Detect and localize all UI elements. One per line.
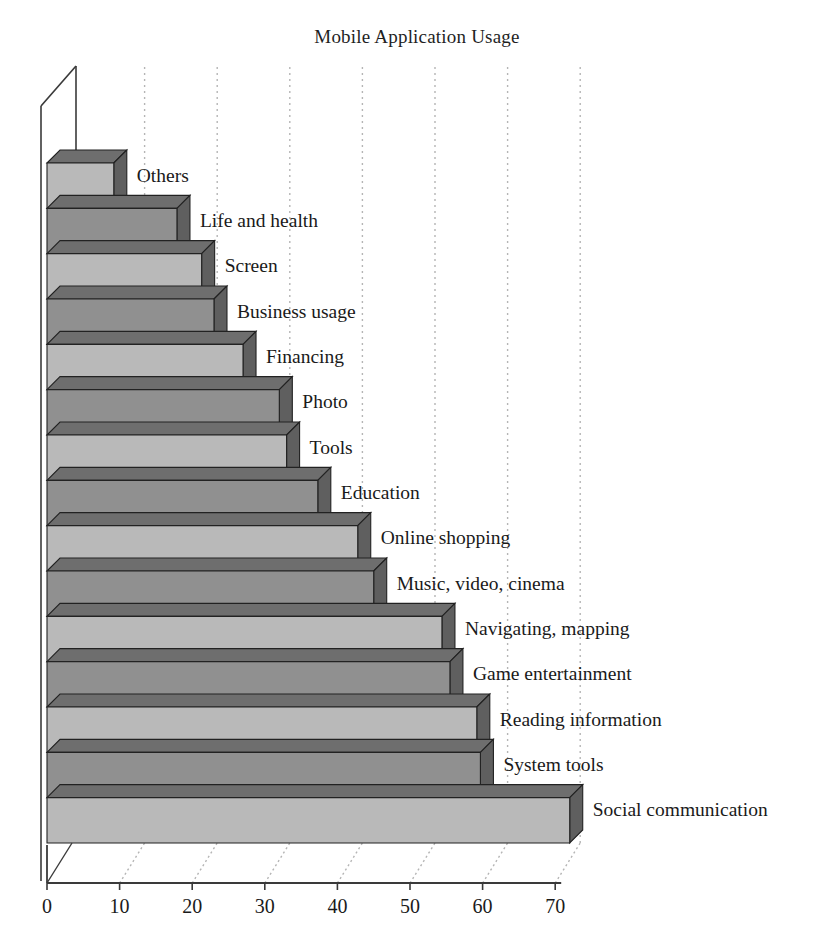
bar-top-face <box>47 467 331 480</box>
category-label-7: Education <box>341 482 420 503</box>
x-tick-label-20: 20 <box>182 895 202 917</box>
category-label-10: Navigating, mapping <box>465 618 630 639</box>
axes <box>47 843 561 890</box>
category-label-9: Music, video, cinema <box>397 573 565 594</box>
bar-top-face <box>47 739 493 752</box>
category-label-1: Life and health <box>200 210 318 231</box>
bar-top-face <box>47 649 463 662</box>
category-label-3: Business usage <box>237 301 356 322</box>
bar-top-face <box>47 694 490 707</box>
category-label-4: Financing <box>266 346 344 367</box>
x-tick-label-30: 30 <box>255 895 275 917</box>
wall-top-edge <box>41 66 76 106</box>
bar-top-face <box>47 150 127 163</box>
bar-front-face <box>47 798 570 843</box>
bar-top-face <box>47 603 455 616</box>
grid-floor-line-60 <box>483 843 508 883</box>
x-tick-labels: 010203040506070 <box>42 895 565 917</box>
bar-14[interactable] <box>47 785 583 843</box>
category-label-5: Photo <box>302 391 348 412</box>
bar-top-face <box>47 331 256 344</box>
grid-floor-line-70 <box>555 843 580 883</box>
bar-top-face <box>47 422 300 435</box>
grid-floor-line-50 <box>410 843 435 883</box>
x-tick-label-0: 0 <box>42 895 52 917</box>
category-label-14: Social communication <box>593 799 768 820</box>
category-label-2: Screen <box>225 255 278 276</box>
category-label-0: Others <box>137 165 189 186</box>
category-label-8: Online shopping <box>381 527 511 548</box>
bar-top-face <box>47 241 215 254</box>
x-tick-label-70: 70 <box>545 895 565 917</box>
category-label-13: System tools <box>503 754 603 775</box>
grid-floor-line-10 <box>120 843 145 883</box>
category-label-12: Reading information <box>500 709 662 730</box>
grid-floor-line-20 <box>192 843 217 883</box>
bar-top-face <box>47 558 387 571</box>
bar-series <box>47 150 583 843</box>
bar-top-face <box>47 513 371 526</box>
x-tick-label-10: 10 <box>110 895 130 917</box>
origin-depth-line <box>47 843 72 883</box>
bar-chart-plot: OthersLife and healthScreenBusiness usag… <box>0 0 834 943</box>
grid-floor-line-30 <box>265 843 290 883</box>
bar-top-face <box>47 195 190 208</box>
bar-top-face <box>47 377 292 390</box>
x-tick-label-40: 40 <box>327 895 347 917</box>
bar-top-face <box>47 785 583 798</box>
x-tick-label-60: 60 <box>473 895 493 917</box>
chart-container: Mobile Application Usage OthersLife and … <box>0 0 834 943</box>
x-tick-label-50: 50 <box>400 895 420 917</box>
category-label-11: Game entertainment <box>473 663 632 684</box>
bar-top-face <box>47 286 227 299</box>
category-label-6: Tools <box>310 437 353 458</box>
grid-floor-line-40 <box>337 843 362 883</box>
